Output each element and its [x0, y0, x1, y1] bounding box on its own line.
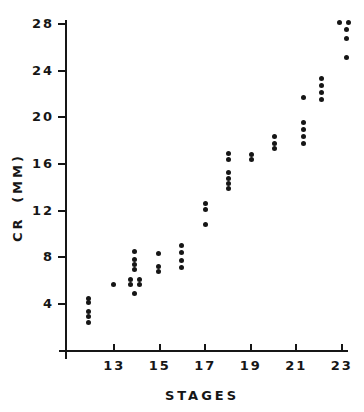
data-point	[226, 176, 231, 181]
x-tick	[341, 344, 343, 352]
data-point	[226, 151, 231, 156]
data-point	[156, 269, 161, 274]
data-point	[272, 141, 277, 146]
data-point	[86, 309, 91, 314]
data-point	[301, 127, 306, 132]
data-point	[226, 157, 231, 162]
y-tick-label: 8	[20, 250, 54, 264]
x-tick	[113, 344, 115, 352]
data-point	[226, 170, 231, 175]
x-tick-label: 23	[325, 359, 359, 373]
y-tick-label: 12	[20, 204, 54, 218]
data-point	[86, 314, 91, 319]
data-point	[179, 265, 184, 270]
data-point	[344, 36, 349, 41]
y-tick-label: 24	[20, 64, 54, 78]
data-point	[272, 134, 277, 139]
data-point	[226, 186, 231, 191]
data-point	[301, 95, 306, 100]
data-point	[337, 20, 342, 25]
x-tick	[295, 344, 297, 352]
data-point	[179, 243, 184, 248]
data-point	[137, 282, 142, 287]
y-axis-title: CR (MM)	[10, 128, 25, 268]
data-point	[132, 249, 137, 254]
x-tick-label: 17	[188, 359, 222, 373]
y-tick-label: 20	[20, 110, 54, 124]
data-point	[111, 282, 116, 287]
x-tick	[159, 344, 161, 352]
data-point	[249, 152, 254, 157]
y-tick	[58, 163, 66, 165]
data-point	[86, 320, 91, 325]
data-point	[203, 201, 208, 206]
x-tick-label: 13	[97, 359, 131, 373]
data-point	[156, 251, 161, 256]
data-point	[301, 120, 306, 125]
y-tick-label: 28	[20, 17, 54, 31]
x-tick	[250, 344, 252, 352]
data-point	[226, 181, 231, 186]
data-point	[128, 282, 133, 287]
data-point	[301, 141, 306, 146]
data-point	[301, 134, 306, 139]
data-point	[179, 258, 184, 263]
data-point	[179, 250, 184, 255]
x-axis-title: STAGES	[132, 388, 272, 403]
x-tick-label: 21	[279, 359, 313, 373]
x-tick	[204, 344, 206, 352]
data-point	[249, 157, 254, 162]
y-tick-label: 4	[20, 297, 54, 311]
data-point	[132, 291, 137, 296]
data-point	[344, 27, 349, 32]
y-tick	[58, 256, 66, 258]
data-point	[86, 300, 91, 305]
scatter-plot-figure: 481216202428 131517192123 CR (MM) STAGES	[0, 0, 364, 412]
data-point	[319, 76, 324, 81]
y-tick	[58, 70, 66, 72]
data-point	[346, 20, 351, 25]
data-point	[203, 207, 208, 212]
data-point	[132, 267, 137, 272]
y-tick	[58, 303, 66, 305]
y-tick-label: 16	[20, 157, 54, 171]
y-tick	[58, 23, 66, 25]
data-point	[319, 97, 324, 102]
x-tick-label: 19	[234, 359, 268, 373]
y-tick	[58, 210, 66, 212]
x-tick-label: 15	[143, 359, 177, 373]
data-point	[344, 55, 349, 60]
data-point	[319, 90, 324, 95]
data-point	[203, 222, 208, 227]
data-point	[319, 83, 324, 88]
y-tick	[58, 116, 66, 118]
data-point	[272, 146, 277, 151]
